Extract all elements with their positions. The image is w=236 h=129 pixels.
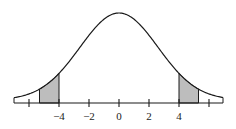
shaded-region-right — [179, 73, 199, 103]
tick-label: 0 — [116, 110, 122, 122]
tick-label: 2 — [146, 110, 152, 122]
x-axis-tick-labels: −4−2024 — [53, 110, 182, 122]
bell-curve — [14, 13, 223, 98]
normal-curve-figure: −4−2024 — [0, 0, 236, 129]
tick-label: 4 — [176, 110, 182, 122]
tick-label: −2 — [83, 110, 95, 122]
shaded-region-left — [40, 73, 60, 103]
shaded-tail-regions — [40, 73, 199, 103]
tick-label: −4 — [53, 110, 65, 122]
